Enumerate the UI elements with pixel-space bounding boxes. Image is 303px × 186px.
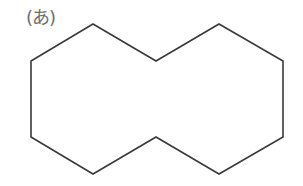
polygon-figure (0, 0, 303, 186)
decagon-outline (31, 24, 283, 174)
